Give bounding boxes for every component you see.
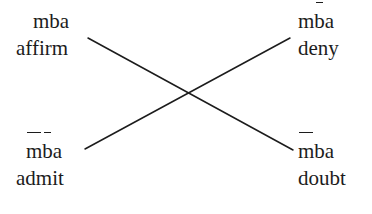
letter-b-macron: b [314, 8, 325, 35]
verb-label: deny [298, 35, 339, 62]
corner-bottom-left: mba admit [16, 138, 64, 193]
connector-affirm-to-doubt [88, 38, 293, 150]
letter-a: a [325, 138, 334, 165]
letter-b: b [314, 138, 325, 165]
letter-a: a [60, 8, 69, 35]
square-of-opposition-diagram: mba affirm mba deny mba admit [0, 0, 372, 214]
term-top-right: mba [298, 8, 339, 35]
verb-label: affirm [16, 35, 68, 62]
verb-top-right: deny [298, 35, 339, 62]
letter-m-macron: m [298, 138, 314, 165]
verb-label: admit [16, 165, 64, 192]
corner-top-left: mba affirm [16, 8, 69, 63]
letter-b-macron: b [42, 138, 53, 165]
verb-bottom-right: doubt [298, 165, 346, 192]
term-bottom-left: mba [16, 138, 64, 165]
corner-top-right: mba deny [298, 8, 339, 63]
letter-m: m [298, 8, 314, 35]
verb-label: doubt [298, 165, 346, 192]
letter-b: b [49, 8, 60, 35]
verb-top-left: affirm [16, 35, 69, 62]
term-bottom-right: mba [298, 138, 346, 165]
letter-m: m [33, 8, 49, 35]
term-top-left: mba [16, 8, 69, 35]
letter-a: a [325, 8, 334, 35]
corner-bottom-right: mba doubt [298, 138, 346, 193]
letter-m-macron: m [26, 138, 42, 165]
verb-bottom-left: admit [16, 165, 64, 192]
letter-a: a [53, 138, 62, 165]
